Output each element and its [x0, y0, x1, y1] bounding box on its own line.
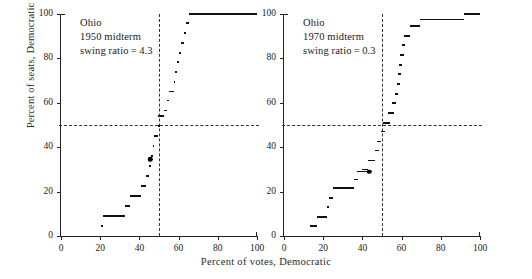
y-tick-label: 0 [271, 231, 276, 241]
data-step-segment [383, 122, 390, 124]
data-step-segment [368, 160, 375, 162]
x-tick-mark [480, 236, 481, 240]
data-step-segment [317, 216, 327, 218]
reference-line-50-votes [382, 14, 383, 236]
x-tick-label: 80 [436, 244, 446, 254]
y-axis-cap [284, 14, 288, 15]
y-tick-mark [280, 192, 284, 193]
y-tick-label: 60 [267, 98, 277, 108]
actual-election-marker [367, 169, 372, 174]
y-tick-label: 40 [267, 142, 277, 152]
data-step-segment [329, 197, 333, 199]
panel-annotation: Ohio1970 midtermswing ratio = 0.3 [303, 16, 376, 59]
annotation-election: 1970 midterm [303, 30, 376, 44]
x-tick-mark [323, 236, 324, 240]
x-tick-mark [362, 236, 363, 240]
data-step-segment [398, 73, 401, 75]
y-tick-mark [280, 14, 284, 15]
y-tick-mark [280, 103, 284, 104]
data-step-segment [399, 64, 402, 66]
x-tick-label: 100 [473, 244, 487, 254]
x-tick-label: 60 [397, 244, 407, 254]
data-step-segment [333, 187, 353, 189]
data-step-segment [388, 112, 394, 114]
data-step-segment [327, 206, 329, 208]
x-tick-mark [402, 236, 403, 240]
y-tick-label: 80 [267, 54, 277, 64]
data-step-segment [395, 93, 399, 95]
y-tick-mark [280, 58, 284, 59]
data-step-segment [400, 54, 403, 56]
x-tick-label: 0 [282, 244, 287, 254]
data-step-segment [377, 141, 381, 143]
data-step-segment [420, 19, 463, 21]
annotation-swing-ratio: swing ratio = 0.3 [303, 44, 376, 58]
data-step-segment [310, 225, 316, 227]
x-tick-label: 40 [358, 244, 368, 254]
x-tick-mark [441, 236, 442, 240]
data-step-segment [402, 44, 405, 46]
data-step-segment [354, 179, 358, 181]
annotation-state: Ohio [303, 16, 376, 30]
data-step-segment [392, 102, 396, 104]
data-step-segment [381, 131, 385, 133]
seats-votes-figure: Percent of seats, Democratic Percent of … [0, 0, 532, 279]
y-tick-label: 20 [267, 187, 277, 197]
panel-ohio-1970: 020406080100020406080100Ohio1970 midterm… [0, 0, 532, 279]
data-step-segment [404, 35, 410, 37]
y-tick-mark [280, 147, 284, 148]
data-step-segment [397, 83, 400, 85]
x-tick-label: 20 [318, 244, 328, 254]
data-step-segment [375, 150, 379, 152]
y-tick-label: 100 [262, 9, 276, 19]
x-tick-mark [284, 236, 285, 240]
data-step-segment [464, 13, 480, 15]
data-step-segment [410, 25, 421, 27]
